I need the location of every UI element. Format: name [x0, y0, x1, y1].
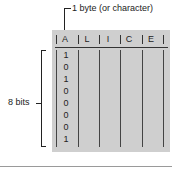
header-char: E	[144, 34, 158, 44]
header-separator	[142, 35, 143, 44]
callout-leader-horizontal	[64, 8, 71, 9]
column-line	[120, 50, 121, 147]
header-char: I	[101, 34, 115, 44]
bit-value: 0	[60, 62, 72, 72]
bit-value: 0	[60, 122, 72, 132]
bit-value: 0	[60, 86, 72, 96]
header-separator	[99, 35, 100, 44]
bit-value: 1	[60, 50, 72, 60]
bit-value: 1	[60, 74, 72, 84]
header-separator	[163, 35, 164, 44]
column-line	[99, 50, 100, 147]
header-separator	[78, 35, 79, 44]
bit-value: 1	[60, 134, 72, 144]
column-line	[56, 50, 57, 147]
column-line	[163, 50, 164, 147]
character-header-row: A L I C E	[52, 34, 170, 46]
bit-value: 0	[60, 110, 72, 120]
header-char: C	[122, 34, 136, 44]
byte-callout-label: 1 byte (or character)	[72, 3, 153, 13]
bit-value: 0	[60, 98, 72, 108]
header-separator	[56, 35, 57, 44]
header-char: L	[80, 34, 94, 44]
header-char: A	[58, 34, 72, 44]
bits-bracket	[41, 50, 42, 147]
header-separator	[120, 35, 121, 44]
header-underline	[55, 47, 168, 48]
bits-label: 8 bits	[8, 97, 30, 107]
column-line	[78, 50, 79, 147]
column-line	[142, 50, 143, 147]
bits-bracket-top	[41, 50, 46, 51]
bits-bracket-tick	[36, 103, 41, 104]
bits-bracket-bottom	[41, 146, 46, 147]
bottom-divider	[0, 166, 172, 167]
